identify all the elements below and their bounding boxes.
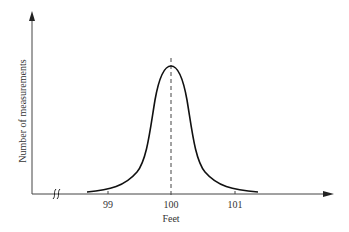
x-axis-label: Feet <box>162 213 179 224</box>
x-tick-label-101: 101 <box>228 199 243 210</box>
x-axis-arrow-icon <box>323 191 334 197</box>
y-axis-arrow-icon <box>29 11 35 21</box>
x-tick-label-100: 100 <box>164 199 179 210</box>
bell-curve <box>87 66 258 192</box>
x-tick-label-99: 99 <box>103 199 113 210</box>
chart-canvas <box>0 0 349 232</box>
y-axis-label: Number of measurements <box>17 59 28 162</box>
